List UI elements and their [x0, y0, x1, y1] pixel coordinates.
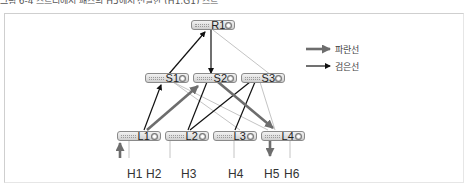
port-icon	[227, 75, 234, 82]
switch-node-r1[interactable]: R1	[191, 20, 235, 30]
port-dots-icon	[121, 135, 136, 138]
switch-node-l3[interactable]: L3	[213, 131, 257, 141]
switch-node-s3[interactable]: S3	[241, 73, 285, 83]
node-label: L3	[234, 131, 248, 141]
node-label: S2	[214, 73, 228, 83]
host-h6: H6	[284, 167, 299, 181]
port-dots-icon	[245, 77, 260, 80]
port-icon	[199, 133, 206, 140]
port-icon	[247, 133, 254, 140]
port-dots-icon	[217, 135, 232, 138]
host-h3: H3	[181, 167, 196, 181]
port-dots-icon	[197, 77, 212, 80]
port-dots-icon	[169, 135, 184, 138]
port-icon	[295, 133, 302, 140]
legend-label-gray: 파란선	[335, 43, 359, 56]
host-h5: H5	[264, 167, 279, 181]
node-label: S1	[166, 73, 180, 83]
node-label: R1	[211, 20, 225, 30]
switch-node-l2[interactable]: L2	[165, 131, 209, 141]
legend-label-black: 검은선	[335, 60, 359, 73]
host-h4: H4	[228, 167, 243, 181]
port-icon	[275, 75, 282, 82]
switch-node-s1[interactable]: S1	[145, 73, 189, 83]
switch-node-l1[interactable]: L1	[117, 131, 161, 141]
port-icon	[151, 133, 158, 140]
port-icon	[225, 22, 232, 29]
port-dots-icon	[195, 24, 209, 27]
port-dots-icon	[149, 77, 164, 80]
switch-node-l4[interactable]: L4	[261, 131, 305, 141]
host-h2: H2	[146, 167, 161, 181]
host-h1: H1	[127, 167, 142, 181]
node-label: L1	[138, 131, 152, 141]
node-label: L2	[186, 131, 200, 141]
port-dots-icon	[265, 135, 280, 138]
node-label: S3	[262, 73, 276, 83]
switch-node-s2[interactable]: S2	[193, 73, 237, 83]
node-label: L4	[282, 131, 296, 141]
port-icon	[179, 75, 186, 82]
